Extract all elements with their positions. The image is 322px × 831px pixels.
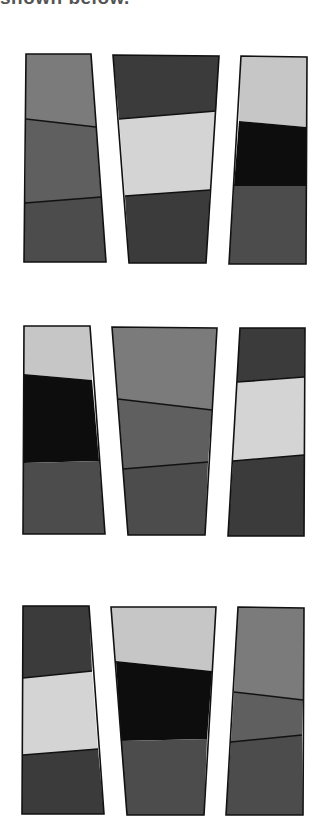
band-dark — [226, 735, 303, 815]
band-darker — [228, 455, 304, 536]
shape-row2-col3 — [228, 328, 305, 536]
band-dark — [121, 739, 207, 815]
band-dark — [23, 461, 105, 534]
band-light_alt — [24, 326, 92, 380]
band-mid_dark — [118, 399, 212, 469]
band-mid_dark — [25, 119, 101, 203]
band-light — [233, 377, 304, 461]
band-mid — [26, 54, 96, 127]
shape-row1-col3 — [229, 56, 307, 264]
band-mid — [112, 327, 217, 410]
band-dark — [123, 462, 208, 535]
shape-row3-col1 — [22, 606, 104, 814]
band-black — [234, 121, 306, 186]
band-light_alt — [111, 607, 216, 671]
band-dark — [24, 197, 106, 262]
band-darker — [125, 190, 210, 263]
shape-row3-col3 — [226, 607, 304, 815]
band-dark — [229, 186, 306, 264]
band-mid — [234, 607, 304, 700]
shape-row1-col2 — [113, 55, 219, 263]
shape-row2-col2 — [112, 327, 217, 535]
shape-row3-col2 — [111, 607, 216, 815]
band-black — [24, 374, 99, 463]
band-black — [116, 661, 212, 741]
shape-row2-col1 — [23, 326, 105, 534]
band-light — [119, 111, 216, 196]
band-darker — [23, 606, 92, 678]
band-light_alt — [239, 56, 307, 127]
band-darker — [237, 328, 305, 382]
band-darker — [22, 749, 104, 814]
shape-row1-col1 — [24, 54, 106, 262]
trapezoid-figure-grid — [0, 0, 322, 831]
band-light — [23, 671, 98, 755]
band-darker — [113, 55, 219, 119]
